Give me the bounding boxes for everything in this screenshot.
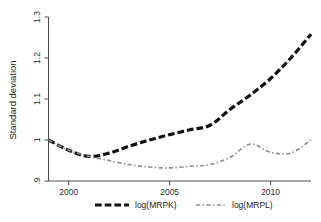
- y-tick-label: 1.1: [32, 93, 42, 105]
- series-line-logmrpl: [49, 140, 312, 168]
- x-tick-label: 2005: [160, 187, 179, 197]
- chart-figure: Standard deviation .911.11.21.3 20002005…: [0, 0, 321, 222]
- y-axis-title: Standard deviation: [7, 60, 18, 139]
- x-tick-label: 2000: [59, 187, 78, 197]
- series-line-logmrpk: [49, 34, 312, 156]
- legend-label-1: log(MRPK): [135, 200, 177, 210]
- chart-legend: log(MRPK)log(MRPL): [95, 200, 273, 210]
- legend-label-2: log(MRPL): [232, 200, 273, 210]
- y-axis-ticks: .911.11.21.3: [32, 11, 49, 185]
- y-tick-label: 1: [32, 137, 42, 142]
- x-tick-label: 2010: [261, 187, 280, 197]
- chart-series: [49, 34, 312, 168]
- y-tick-label: .9: [32, 177, 42, 184]
- y-tick-label: 1.2: [32, 52, 42, 64]
- x-axis-ticks: 200020052010: [59, 181, 280, 197]
- line-chart: Standard deviation .911.11.21.3 20002005…: [0, 0, 321, 222]
- y-tick-label: 1.3: [32, 11, 42, 23]
